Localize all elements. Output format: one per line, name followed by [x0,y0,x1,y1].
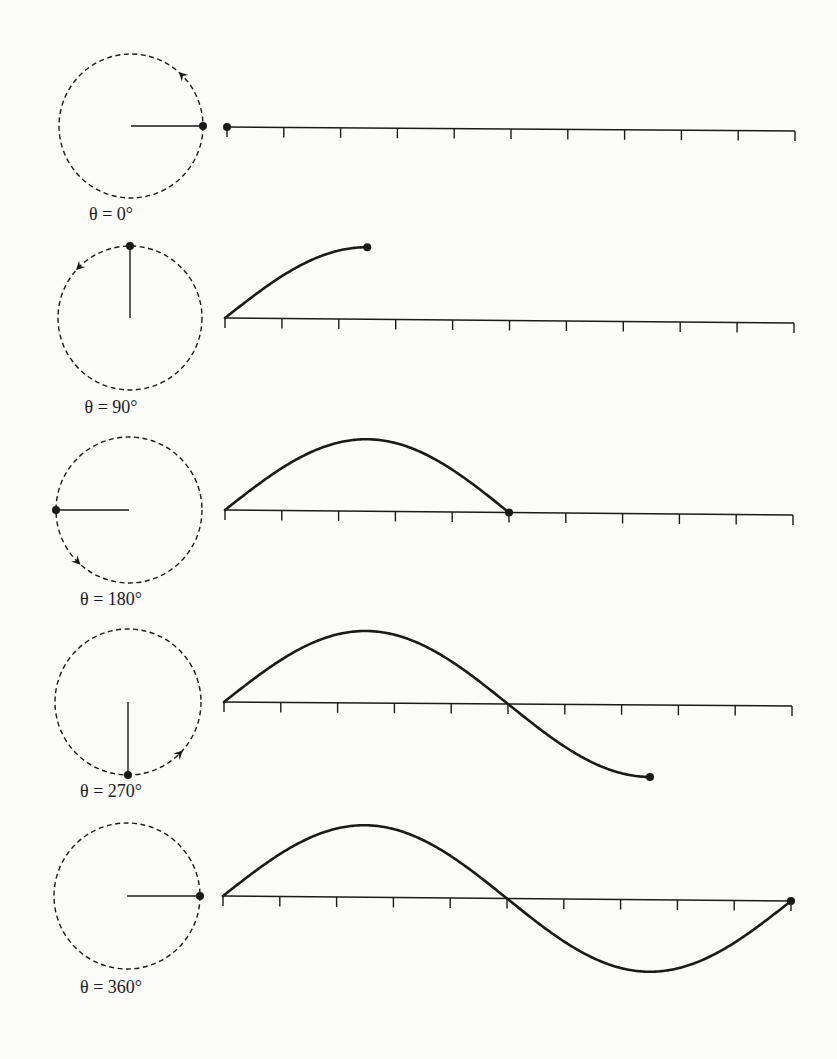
sine-wave-trace [225,439,509,512]
phasor-tip-dot [124,771,132,779]
sine-wave-phasor-diagram: θ = 0° θ = 90° θ = 180° θ = 270° θ = 360… [0,0,837,1059]
diagram-canvas [0,0,837,1059]
wave-current-point-dot [363,243,371,251]
wave-current-point-dot [223,123,231,131]
wave-current-point-dot [505,509,513,517]
phasor-tip-dot [126,242,134,250]
angle-label-270: θ = 270° [80,781,142,802]
angle-label-180: θ = 180° [80,589,142,610]
sine-wave-trace [225,247,367,318]
angle-label-360: θ = 360° [80,977,142,998]
angle-label-0: θ = 0° [89,204,133,225]
wave-current-point-dot [646,773,654,781]
angle-label-90: θ = 90° [85,397,138,418]
wave-current-point-dot [787,897,795,905]
phasor-tip-dot [196,892,204,900]
sine-wave-trace [223,825,791,972]
phasor-tip-dot [199,122,207,130]
phasor-tip-dot [52,506,60,514]
